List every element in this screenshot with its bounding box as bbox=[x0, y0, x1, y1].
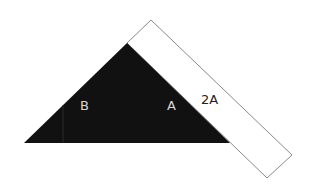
label-a: A bbox=[167, 98, 176, 113]
label-b: B bbox=[80, 98, 89, 113]
diagram-canvas: B A 2A bbox=[0, 0, 309, 189]
label-2a: 2A bbox=[201, 92, 218, 107]
